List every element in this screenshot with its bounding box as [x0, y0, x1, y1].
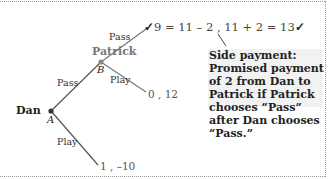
payoff-pass-pass: ✓9 = 11 – 2 , 11 + 2 = 13✓: [144, 22, 305, 34]
game-tree-figure: Patrick B Dan A Pass Play Pass Play ✓9 =…: [0, 0, 328, 179]
branch-label-dan-pass: Pass: [57, 78, 78, 88]
node-label-a: A: [47, 115, 54, 125]
player-label-dan: Dan: [16, 105, 41, 116]
side-payment-annotation: Side payment: Promised payment of 2 from…: [209, 49, 327, 140]
player-label-patrick: Patrick: [92, 46, 136, 57]
payoff-play: 1 , –10: [100, 161, 135, 172]
annotation-leader: [218, 34, 226, 46]
node-label-b: B: [97, 65, 104, 75]
check-icon: ✓: [144, 20, 154, 34]
branch-label-patrick-pass: Pass: [109, 32, 130, 42]
branch-label-patrick-play: Play: [110, 75, 130, 85]
payoff-expression: 9 = 11 – 2 , 11 + 2 = 13: [154, 20, 295, 34]
node-a: [48, 108, 53, 113]
check-icon: ✓: [295, 20, 305, 34]
branch-label-dan-play: Play: [57, 137, 77, 147]
payoff-pass-play: 0 , 12: [148, 89, 178, 100]
